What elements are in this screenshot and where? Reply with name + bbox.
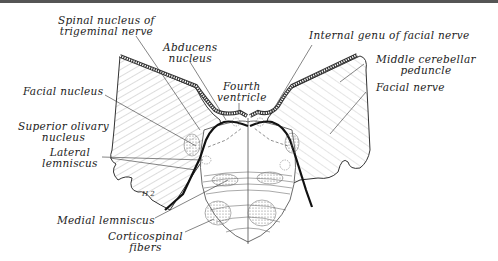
label-line: fibers	[108, 242, 183, 253]
right-corticospinal-shape	[248, 200, 276, 226]
label-line: nucleus	[18, 132, 109, 143]
label-superior-olivary-nucleus: Superior olivary nucleus	[18, 121, 109, 143]
label-line: lemniscus	[42, 158, 98, 169]
label-line: ventricle	[217, 92, 267, 103]
label-fourth-ventricle: Fourth ventricle	[217, 81, 267, 103]
label-internal-genu-of-facial-nerve: Internal genu of facial nerve	[309, 30, 470, 41]
label-corticospinal-fibers: Corticospinal fibers	[108, 231, 183, 253]
pons-cross-section-figure: Spinal nucleus of trigeminal nerve Abduc…	[0, 0, 498, 261]
figure-mark: H 2	[142, 190, 155, 198]
label-facial-nerve: Facial nerve	[376, 82, 445, 93]
label-spinal-nucleus-of-trigeminal-nerve: Spinal nucleus of trigeminal nerve	[58, 15, 155, 37]
label-abducens-nucleus: Abducens nucleus	[163, 42, 217, 64]
right-medial-lemniscus-shape	[257, 172, 283, 184]
label-lateral-lemniscus: Lateral lemniscus	[42, 147, 98, 169]
label-line: trigeminal nerve	[58, 26, 155, 37]
left-facial-nucleus-shape	[184, 134, 200, 156]
label-line: nucleus	[163, 53, 217, 64]
label-facial-nucleus: Facial nucleus	[23, 86, 103, 97]
label-line: peduncle	[376, 65, 476, 76]
label-middle-cerebellar-peduncle: Middle cerebellar peduncle	[376, 54, 476, 76]
label-medial-lemniscus: Medial lemniscus	[57, 215, 155, 226]
right-facial-nucleus-shape	[285, 133, 299, 153]
left-medial-lemniscus-shape	[212, 174, 238, 186]
